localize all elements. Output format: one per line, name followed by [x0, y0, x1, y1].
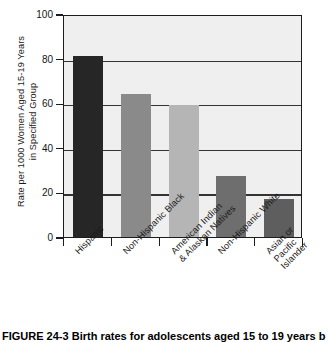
x-axis-tick [63, 238, 64, 246]
x-axis-tick [254, 238, 255, 246]
y-axis-tick-label: 0 [13, 233, 53, 243]
bar [169, 105, 199, 237]
y-axis-tick [56, 14, 63, 15]
y-axis-tick [56, 193, 63, 194]
y-axis-tick [56, 59, 63, 60]
y-axis-tick-label: 60 [13, 99, 53, 109]
y-axis-tick [56, 104, 63, 105]
y-axis-tick [56, 148, 63, 149]
y-axis-tick [56, 237, 63, 238]
figure-caption: FIGURE 24-3 Birth rates for adolescents … [2, 330, 330, 342]
y-axis-title: Rate per 1000 Women Aged 15-19 Years in … [16, 7, 39, 237]
bar [73, 56, 103, 237]
y-axis-tick-label: 20 [13, 188, 53, 198]
y-axis-tick-label: 40 [13, 144, 53, 154]
x-axis-tick [159, 238, 160, 246]
y-axis-tick-label: 100 [13, 10, 53, 20]
x-axis-tick [111, 238, 112, 246]
bar [121, 94, 151, 237]
y-axis-tick-label: 80 [13, 55, 53, 65]
